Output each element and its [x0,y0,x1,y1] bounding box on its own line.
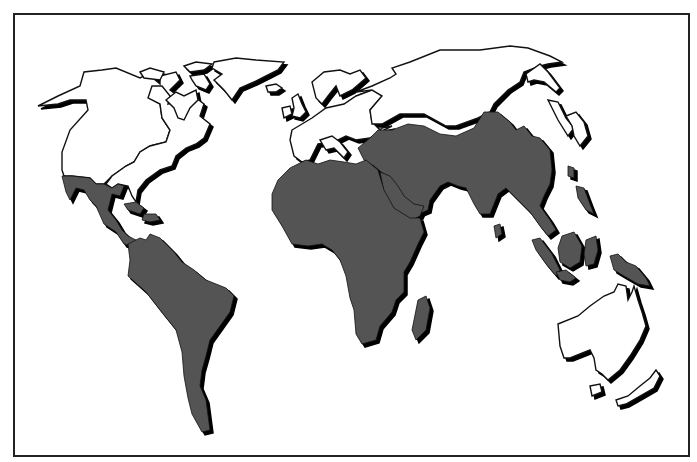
region-taiwan [568,166,574,178]
world-map-canvas [0,0,697,462]
world-map [0,0,697,462]
